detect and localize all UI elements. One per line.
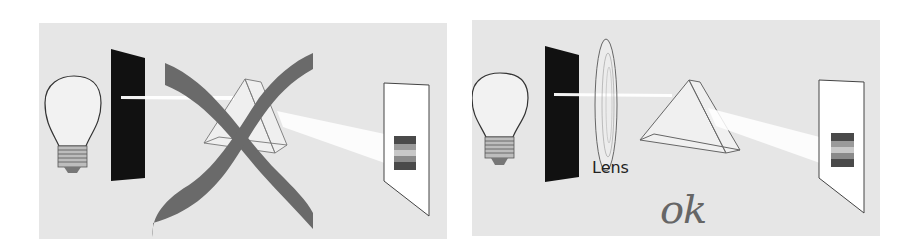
spectrum-band [831,133,854,167]
lens-icon [595,39,617,171]
panel-with-lens: Lens ok [472,20,880,236]
slit-screen [111,49,145,181]
light-bulb-icon [45,76,101,173]
ok-label: ok [660,186,706,232]
light-bulb-icon [472,73,528,165]
lens-label: Lens [592,158,629,177]
optics-diagram-left [39,23,447,239]
panel-without-lens [39,23,447,239]
cross-out-mark [153,53,313,237]
slit-screen [545,46,579,182]
spectrum-band [394,136,416,170]
